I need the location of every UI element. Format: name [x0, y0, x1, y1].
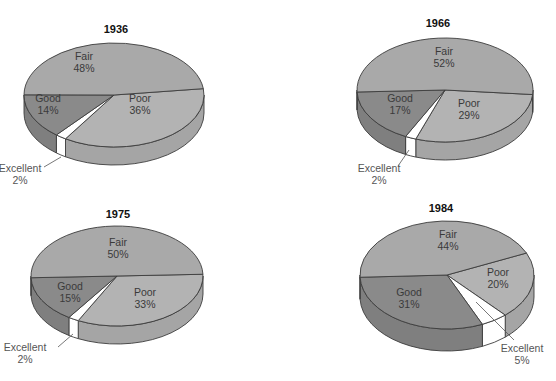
slice-label-good: Good [35, 92, 61, 104]
slice-label-good: Good [57, 280, 83, 292]
slice-label-fair: Fair [435, 45, 454, 57]
slice-label-fair: Fair [109, 236, 128, 248]
slice-value-excellent: 2% [12, 174, 27, 186]
slice-label-poor: Poor [134, 286, 157, 298]
pie-chart-1966: 1966Fair52%Poor29%Good17%Excellent2% [357, 17, 533, 186]
slice-value-excellent: 2% [17, 353, 32, 365]
slice-value-fair: 48% [73, 62, 94, 74]
slice-value-fair: 50% [107, 248, 128, 260]
chart-title: 1936 [104, 23, 128, 35]
pie-chart-1936: 1936Fair48%Poor36%Good14%Excellent2% [0, 23, 204, 186]
slice-label-good: Good [387, 92, 413, 104]
slice-label-excellent: Excellent [358, 162, 401, 174]
slice-label-excellent: Excellent [4, 341, 47, 353]
slice-label-good: Good [396, 286, 422, 298]
slice-value-poor: 20% [487, 278, 508, 290]
slice-label-poor: Poor [129, 92, 152, 104]
slice-value-fair: 44% [437, 240, 458, 252]
side-wall-excellent [406, 136, 416, 157]
slice-label-excellent: Excellent [501, 342, 544, 354]
slice-value-good: 17% [389, 104, 410, 116]
slice-label-fair: Fair [75, 50, 94, 62]
slice-value-poor: 36% [129, 104, 150, 116]
slice-value-fair: 52% [433, 57, 454, 69]
chart-title: 1966 [426, 17, 450, 29]
slice-label-excellent: Excellent [0, 162, 41, 174]
slice-value-poor: 33% [134, 298, 155, 310]
slice-value-good: 14% [37, 104, 58, 116]
slice-value-poor: 29% [458, 109, 479, 121]
slice-value-excellent: 5% [514, 354, 529, 366]
pie-chart-1975: 1975Fair50%Poor33%Good15%Excellent2% [4, 208, 203, 365]
chart-title: 1975 [106, 208, 130, 220]
slice-label-poor: Poor [487, 266, 510, 278]
slice-label-poor: Poor [458, 97, 481, 109]
excellent-leader-line [44, 157, 61, 167]
pie-chart-1984: 1984Fair44%Poor20%Good31%Excellent5% [360, 202, 543, 366]
chart-title: 1984 [429, 202, 454, 214]
slice-value-good: 15% [59, 292, 80, 304]
slice-label-fair: Fair [439, 228, 458, 240]
excellent-leader-line [58, 334, 73, 347]
pie-charts-figure: 1936Fair48%Poor36%Good14%Excellent2%1966… [0, 0, 556, 381]
slice-value-excellent: 2% [371, 174, 386, 186]
slice-fair [24, 43, 203, 95]
slice-value-good: 31% [398, 298, 419, 310]
